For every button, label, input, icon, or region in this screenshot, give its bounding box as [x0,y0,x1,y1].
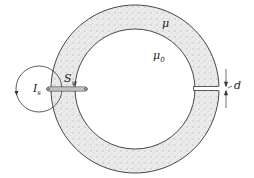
switch-symbol: S [64,72,72,85]
switch-bar [47,87,88,91]
mu-symbol: μ [162,17,169,30]
subscript: s [37,89,41,97]
current-label: Is [33,83,41,97]
d-symbol: d [234,79,241,92]
gap-permeability-label: μ0 [153,50,165,64]
core-permeability-label: μ [162,18,169,29]
subscript: 0 [160,56,164,64]
arrow-icon [15,91,19,96]
subscript: ψ [72,79,78,87]
gap-width-label: d [234,80,241,91]
gap-dimension-arrows [225,69,233,108]
switch-label: Sψ [64,73,77,87]
